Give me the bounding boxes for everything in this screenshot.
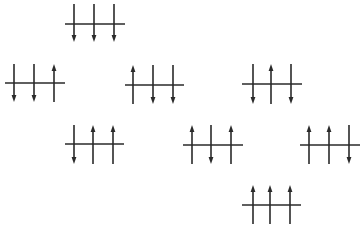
spin-configuration-ddu (5, 64, 65, 102)
arrow-down-icon (92, 4, 97, 42)
arrow-down-icon (72, 4, 77, 42)
spin-configuration-udu (183, 125, 243, 164)
spin-configuration-udd (125, 65, 184, 104)
spin-configuration-diagram (0, 0, 364, 229)
spin-configuration-dud (242, 64, 302, 104)
spin-configuration-uuu (242, 185, 301, 224)
spin-configuration-uud (300, 125, 360, 164)
spin-configuration-duu (65, 125, 124, 164)
spin-configuration-ddd (65, 4, 125, 42)
arrow-down-icon (112, 4, 117, 42)
